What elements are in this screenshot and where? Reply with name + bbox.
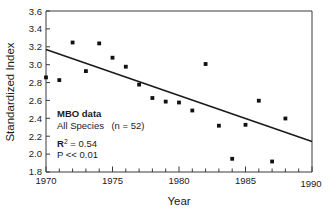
data-point-1985: [244, 123, 248, 127]
annotation-dataset-label: MBO data: [57, 108, 102, 119]
y-axis-tick-labels: 1.8 2.0 2.2 2.4 2.6 2.8 3.0 3.2 3.4 3.6: [29, 6, 42, 178]
y-tick-label-6: 3.0: [29, 59, 42, 70]
data-point-1972: [71, 41, 75, 45]
y-tick-label-7: 3.2: [29, 41, 42, 52]
r-squared-value: = 0.54: [68, 138, 97, 149]
y-tick-label-2: 2.2: [29, 131, 42, 142]
data-point-1973: [84, 69, 88, 73]
data-point-1970: [44, 76, 48, 80]
y-axis-title: Standardized Index: [4, 42, 16, 141]
y-tick-label-9: 3.6: [29, 6, 42, 17]
data-point-1981: [190, 109, 194, 113]
x-tick-label-3: 1985: [235, 175, 256, 186]
data-point-1971: [57, 78, 61, 82]
data-point-1977: [137, 83, 141, 87]
y-tick-label-3: 2.4: [29, 113, 42, 124]
data-point-1979: [164, 100, 168, 104]
data-point-1980: [177, 101, 181, 105]
x-axis-title: Year: [167, 195, 190, 207]
data-point-1984: [230, 157, 234, 161]
data-point-1976: [124, 65, 128, 69]
data-point-1988: [284, 117, 288, 121]
x-tick-label-0: 1970: [35, 175, 56, 186]
y-tick-label-4: 2.6: [29, 95, 42, 106]
y-tick-label-1: 2.0: [29, 148, 42, 159]
data-point-1982: [204, 62, 208, 66]
chart-container: 1.8 2.0 2.2 2.4 2.6 2.8 3.0 3.2 3.4 3.6: [0, 0, 336, 219]
annotation-sample-size: (n = 52): [111, 120, 144, 131]
x-tick-label-2: 1980: [168, 175, 189, 186]
data-point-1983: [217, 124, 221, 128]
x-axis-tick-labels: 1970 1975 1980 1985 1990: [35, 175, 321, 189]
x-tick-label-4: 1990: [300, 178, 321, 189]
data-point-1987: [270, 160, 274, 164]
data-point-1975: [111, 56, 115, 60]
data-point-1978: [151, 96, 155, 100]
y-tick-label-8: 3.4: [29, 23, 42, 34]
y-tick-label-5: 2.8: [29, 77, 42, 88]
y-axis-ticks: [46, 11, 50, 172]
scatter-plot-figure: 1.8 2.0 2.2 2.4 2.6 2.8 3.0 3.2 3.4 3.6: [0, 0, 336, 219]
annotation-block: MBO data All Species (n = 52) R2 = 0.54 …: [57, 108, 144, 160]
data-point-1974: [97, 42, 101, 46]
annotation-p-value: P << 0.01: [57, 149, 98, 160]
data-point-1986: [257, 99, 261, 103]
annotation-r-squared: R2 = 0.54: [57, 138, 97, 150]
x-tick-label-1: 1975: [102, 175, 123, 186]
annotation-species-label: All Species: [57, 120, 104, 131]
